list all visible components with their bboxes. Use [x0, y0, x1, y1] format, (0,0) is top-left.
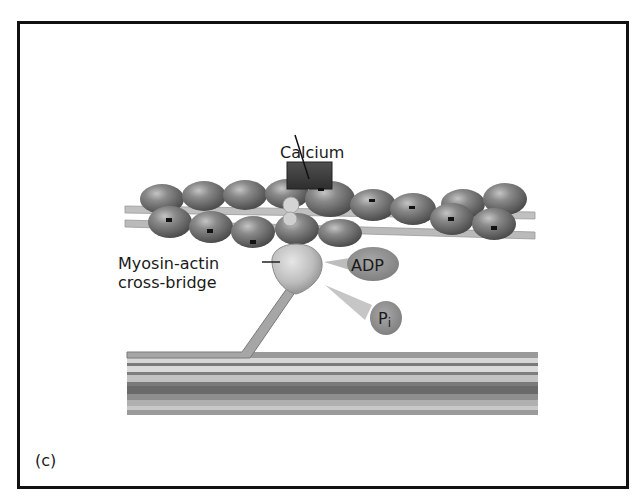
pi-label: Pi [378, 309, 391, 333]
myosin-neck [127, 284, 298, 358]
pi-label-sub: i [388, 316, 391, 330]
crossbridge-label: Myosin-actin cross-bridge [118, 254, 219, 292]
crossbridge-label-line2: cross-bridge [118, 273, 219, 292]
pi-label-main: P [378, 309, 388, 328]
crossbridge-label-line1: Myosin-actin [118, 254, 219, 273]
panel-label: (c) [35, 451, 56, 470]
calcium-block [287, 162, 332, 189]
sarcomere-diagram [0, 0, 644, 499]
myosin-head [272, 244, 322, 294]
thick-filament [127, 352, 538, 415]
calcium-label: Calcium [280, 143, 344, 162]
adp-label: ADP [351, 256, 384, 275]
